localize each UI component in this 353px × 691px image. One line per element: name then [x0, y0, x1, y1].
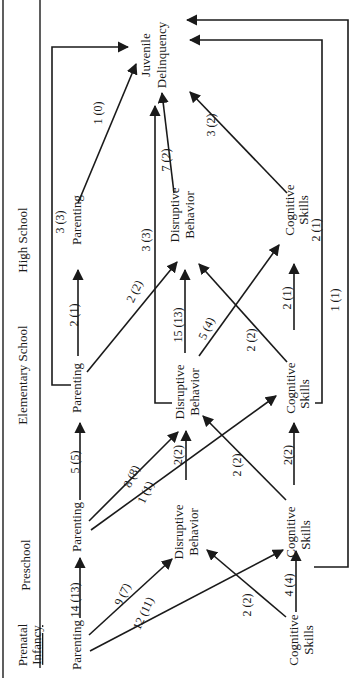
edge-hs-disruptive-jd: [162, 93, 174, 193]
edge-label: 5 (5): [68, 451, 82, 474]
stage-label-high-school: High School: [15, 207, 30, 273]
edge-label: 1 (1): [134, 479, 156, 506]
edge-label: 1 (1): [328, 289, 342, 312]
stage-label-preschool: Preschool: [18, 539, 33, 591]
edge-label: 15 (13): [171, 308, 185, 343]
edge-label: 8 (8): [120, 463, 142, 490]
path-diagram: High School Elementary School Preschool …: [0, 0, 353, 691]
edge-label: 14 (13): [68, 583, 82, 618]
edge-label: 3 (3): [139, 229, 153, 252]
node-hs-parenting: Parenting: [69, 195, 84, 245]
edge-label: 5 (4): [195, 315, 217, 342]
edge-label: 9 (7): [111, 581, 133, 608]
svg-text:Skills: Skills: [298, 520, 313, 550]
edge-ps-cognitive-es-disruptive: [203, 416, 286, 500]
edge-ps-cognitive-jd: [187, 20, 348, 567]
svg-text:Disruptive: Disruptive: [167, 187, 182, 242]
edge-label: 2(2): [171, 445, 185, 465]
node-juvenile-delinquency: Juvenile Delinquency: [138, 21, 169, 88]
svg-text:Disruptive: Disruptive: [172, 364, 187, 419]
edge-label: 2(2): [281, 445, 295, 465]
svg-text:Juvenile: Juvenile: [138, 33, 153, 77]
edge-label: 2 (1): [67, 304, 81, 327]
svg-text:Behavior: Behavior: [187, 368, 202, 416]
edge-label: 12 (11): [130, 595, 157, 632]
stage-label-prenatal: Prenatal: [15, 623, 30, 666]
svg-text:Behavior: Behavior: [186, 508, 201, 556]
svg-text:Behavior: Behavior: [182, 191, 197, 239]
edge-label: 2 (1): [280, 287, 294, 310]
svg-text:Cognitive: Cognitive: [282, 184, 297, 236]
node-pi-parenting: Parenting: [69, 620, 84, 670]
node-es-parenting: Parenting: [69, 363, 84, 413]
edge-label: 2 (2): [240, 594, 254, 617]
node-pi-cognitive-skills: Cognitive Skills: [286, 614, 316, 666]
node-es-cognitive-skills: Cognitive Skills: [283, 362, 312, 414]
node-es-disruptive-behavior: Disruptive Behavior: [172, 364, 202, 419]
svg-text:Cognitive: Cognitive: [286, 614, 301, 666]
edge-label: 2 (1): [309, 219, 323, 242]
stage-label-elementary: Elementary School: [15, 325, 30, 425]
edge-label: 1 (0): [91, 102, 105, 125]
svg-text:Disruptive: Disruptive: [171, 504, 186, 559]
svg-text:Cognitive: Cognitive: [283, 506, 298, 558]
edge-label: 3 (2): [204, 114, 218, 137]
edge-hs-cognitive-jd: [190, 92, 287, 193]
stage-label-infancy: Infancy: [29, 625, 44, 665]
edge-label: 2 (2): [123, 278, 145, 305]
edge-label: 2 (2): [230, 454, 244, 477]
svg-text:Cognitive: Cognitive: [283, 362, 298, 414]
node-ps-disruptive-behavior: Disruptive Behavior: [171, 504, 201, 559]
svg-text:Skills: Skills: [301, 625, 316, 655]
edge-label: 3 (3): [53, 211, 67, 234]
edge-hs-parenting-jd: [78, 64, 136, 203]
node-ps-parenting: Parenting: [69, 502, 84, 552]
node-ps-cognitive-skills: Cognitive Skills: [283, 506, 313, 558]
edge-label: 7 (2): [159, 149, 173, 172]
node-hs-disruptive-behavior: Disruptive Behavior: [167, 187, 197, 242]
svg-text:Skills: Skills: [297, 379, 312, 409]
svg-text:Delinquency: Delinquency: [154, 21, 169, 88]
edge-label: 2 (2): [244, 329, 258, 352]
edge-es-cognitive-hs-disruptive: [199, 264, 287, 362]
edge-label: 4 (4): [282, 574, 296, 597]
